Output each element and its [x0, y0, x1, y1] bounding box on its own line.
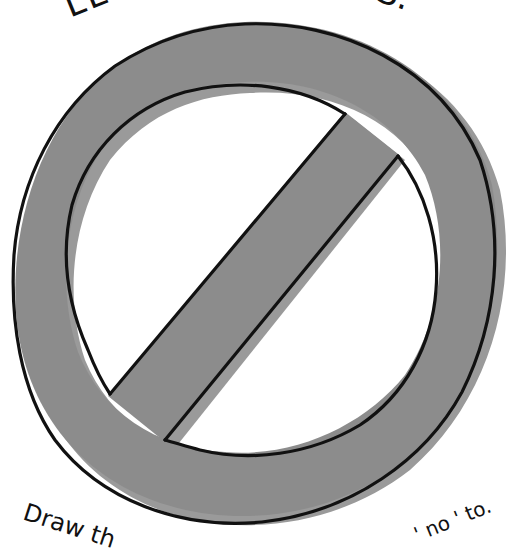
no-symbol-illustration [0, 0, 515, 544]
